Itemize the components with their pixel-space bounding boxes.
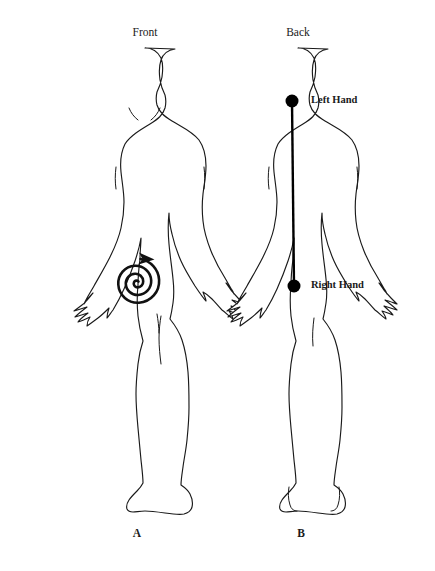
back-view-label: Back bbox=[286, 27, 310, 39]
diagram-canvas bbox=[0, 0, 435, 571]
figure-a-symmetry-touchups bbox=[129, 108, 160, 120]
right-hand-label: Right Hand bbox=[311, 280, 364, 291]
panel-label-b: B bbox=[297, 528, 305, 540]
front-shoulder-seam-left bbox=[115, 167, 116, 189]
body-diagram-figure: Front Back Left Hand Right Hand A B bbox=[0, 0, 435, 571]
left-hand-label: Left Hand bbox=[311, 95, 357, 106]
right-hand-node-dot bbox=[288, 280, 301, 293]
hand-to-hand-connector bbox=[292, 101, 294, 286]
panel-label-a: A bbox=[133, 528, 141, 540]
back-shoulder-seam-left bbox=[268, 167, 269, 189]
left-hand-node-dot bbox=[286, 95, 299, 108]
front-neck-left-detail bbox=[129, 108, 138, 120]
front-view-label: Front bbox=[133, 27, 158, 39]
